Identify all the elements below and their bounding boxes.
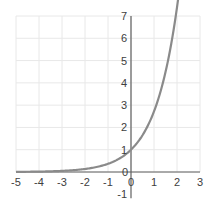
y-tick-label: 0 [122, 166, 128, 178]
exponential-curve [16, 0, 197, 172]
x-tick-label: 3 [197, 176, 203, 188]
x-tick-label: -3 [57, 176, 67, 188]
y-tick-label: -1 [117, 188, 127, 200]
x-tick-label: -5 [11, 176, 21, 188]
x-tick-label: 2 [174, 176, 180, 188]
y-tick-label: 4 [121, 77, 127, 89]
x-tick-label: -1 [103, 176, 113, 188]
x-tick-label: -4 [34, 176, 44, 188]
x-tick-label: -2 [80, 176, 90, 188]
y-tick-label: 5 [121, 55, 127, 67]
exponential-chart: -5-4-3-2-10123 -101234567 [0, 0, 211, 208]
y-tick-label: 7 [121, 10, 127, 22]
y-tick-label: 2 [121, 121, 127, 133]
y-tick-label: 6 [121, 32, 127, 44]
x-tick-label: 1 [151, 176, 157, 188]
y-tick-label: 1 [121, 144, 127, 156]
x-tick-labels: -5-4-3-2-10123 [11, 176, 203, 188]
y-tick-label: 3 [121, 99, 127, 111]
x-tick-label: 0 [128, 176, 134, 188]
